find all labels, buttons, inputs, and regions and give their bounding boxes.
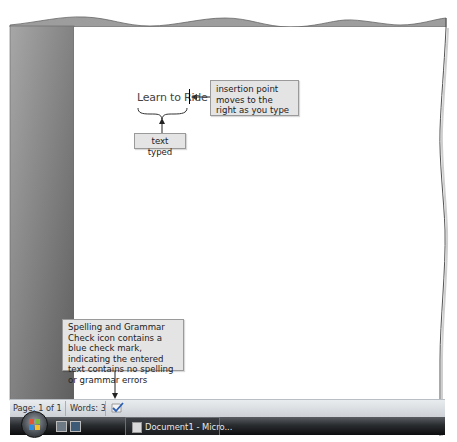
- taskbar-button-label: Document1 - Micro...: [145, 422, 232, 432]
- show-desktop-icon[interactable]: [56, 421, 67, 432]
- switch-windows-icon[interactable]: [70, 421, 81, 432]
- callout-insertion-point: insertion point moves to the right as yo…: [210, 80, 299, 116]
- insertion-point-caret: [189, 89, 190, 104]
- callout-spelling-grammar: Spelling and Grammar Check icon contains…: [62, 319, 184, 371]
- word-document-icon: [132, 422, 142, 433]
- typed-document-text[interactable]: Learn to Ride: [137, 91, 208, 104]
- callout-text-typed: text typed: [134, 133, 186, 149]
- status-bar: Page: 1 of 1 Words: 3: [10, 399, 445, 417]
- status-divider: [65, 401, 66, 416]
- spelling-grammar-check-icon[interactable]: [109, 401, 125, 415]
- status-divider: [105, 401, 106, 416]
- taskbar-button-document1[interactable]: Document1 - Micro...: [125, 417, 220, 435]
- windows-taskbar: Document1 - Micro...: [10, 417, 445, 435]
- word-count-indicator[interactable]: Words: 3: [70, 403, 106, 413]
- start-button[interactable]: [21, 411, 48, 438]
